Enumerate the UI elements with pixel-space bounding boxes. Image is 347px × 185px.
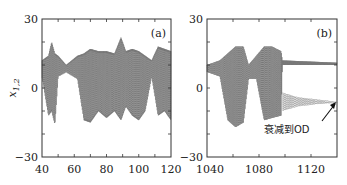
annotation-arrow-icon [322,102,336,121]
y-axis-label: x1,2 [6,79,21,98]
figure: 30 0 −30 40 60 80 100 120 (a) x1,2 30 0 … [0,0,347,185]
panel-b-traces [207,47,337,127]
panel-a-xtick: 60 [67,163,81,176]
y-axis-label-subscript: 1,2 [12,79,21,92]
panel-b-xtick: 1080 [245,163,273,176]
panel-b-label: (b) [316,27,332,40]
panel-b-xtick: 1120 [297,163,325,176]
panel-b-ytick-0: 0 [196,82,203,95]
decay-annotation: 衰减到OD [264,123,310,135]
panel-b-xtick: 1040 [196,163,224,176]
panel-a-ytick-30: 30 [24,13,38,26]
panel-a-xtick: 80 [100,163,114,176]
panel-a: 30 0 −30 40 60 80 100 120 (a) x1,2 [6,13,182,176]
panel-a-ytick-0: 0 [31,82,38,95]
panel-a-label: (a) [151,27,166,40]
svg-text:x1,2: x1,2 [6,79,21,98]
panel-a-xtick: 120 [161,163,182,176]
panel-a-xtick: 100 [128,163,149,176]
panel-a-traces [42,38,171,123]
panel-a-xtick: 40 [35,163,49,176]
panel-b: 30 0 −30 1040 1080 1120 (b) 衰减到OD [180,13,337,176]
panel-b-ytick-30: 30 [189,13,203,26]
